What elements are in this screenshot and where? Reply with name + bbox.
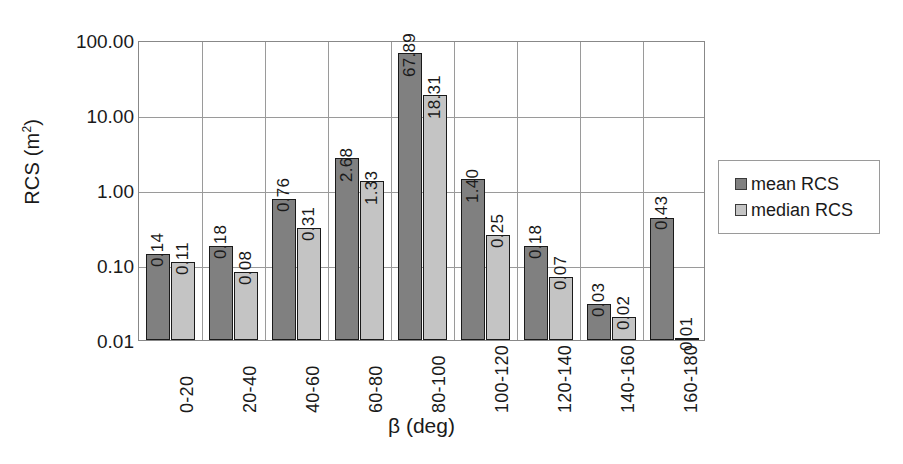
y-axis-tick-label: 100.00: [58, 32, 134, 51]
y-axis-title: RCS (m2): [20, 92, 44, 232]
bar-mean: [461, 179, 485, 340]
bar-median: [423, 95, 447, 340]
bar-value-label: 0.76: [275, 178, 292, 212]
bar-group: 0.760.31: [265, 42, 328, 340]
bar-mean: [650, 218, 674, 341]
bar-group: 67.8918.31: [391, 42, 454, 340]
bar-group: 0.180.08: [202, 42, 265, 340]
x-axis-tick-label: 60-80: [367, 365, 385, 413]
y-axis-title-base: RCS (m: [21, 133, 43, 205]
x-axis-tick-label: 80-100: [430, 355, 448, 413]
bar-group: 2.681.33: [328, 42, 391, 340]
y-axis-tick-label: 1.00: [58, 182, 134, 201]
bar-mean: [524, 246, 548, 340]
bar-value-label: 0.18: [527, 225, 544, 259]
legend-swatch-icon: [735, 178, 747, 190]
bar-value-label: 1.33: [363, 170, 380, 204]
y-axis-title-exponent: 2: [20, 126, 34, 133]
bar-value-label: 0.02: [615, 296, 632, 330]
bar-mean: [272, 199, 296, 340]
bar-value-label: 67.89: [401, 33, 418, 77]
legend-label: mean RCS: [751, 175, 839, 193]
bar-mean: [398, 53, 422, 340]
legend-label: median RCS: [751, 201, 853, 219]
bar-mean: [209, 246, 233, 340]
bar-value-label: 0.25: [489, 214, 506, 248]
bar-value-label: 1.40: [464, 169, 481, 203]
bar-value-label: 0.18: [212, 225, 229, 259]
x-axis-title: β (deg): [138, 414, 705, 438]
y-axis-title-tail: ): [21, 119, 43, 126]
x-axis-tick-label: 160-180: [682, 345, 700, 413]
bar-value-label: 18.31: [426, 75, 443, 119]
bar-value-label: 2.68: [338, 148, 355, 182]
x-axis-tick-label: 40-60: [304, 365, 322, 413]
bar-value-label: 0.07: [552, 255, 569, 289]
bar-group: 0.430.01: [643, 42, 706, 340]
legend-item[interactable]: median RCS: [735, 198, 879, 222]
y-axis-tick-label: 0.10: [58, 257, 134, 276]
bar-value-label: 0.31: [300, 207, 317, 241]
bar-value-label: 0.03: [590, 283, 607, 317]
bar-group: 0.180.07: [517, 42, 580, 340]
rcs-bar-chart: RCS (m2) 100.0010.001.000.100.01 0.140.1…: [0, 0, 903, 464]
chart-legend: mean RCSmedian RCS: [718, 160, 880, 234]
x-axis-tick-label: 100-120: [493, 345, 511, 413]
bar-group: 0.030.02: [580, 42, 643, 340]
bar-value-label: 0.14: [149, 233, 166, 267]
legend-item[interactable]: mean RCS: [735, 172, 879, 196]
bar-value-label: 0.08: [237, 251, 254, 285]
legend-swatch-icon: [735, 204, 747, 216]
bar-median: [297, 228, 321, 340]
bar-group: 1.400.25: [454, 42, 517, 340]
x-axis-tick-label: 20-40: [241, 365, 259, 413]
x-axis-tick-labels: 0-2020-4040-6060-8080-100100-120120-1401…: [138, 345, 705, 415]
x-axis-tick-label: 0-20: [178, 376, 196, 413]
y-axis-tick-label: 0.01: [58, 332, 134, 351]
x-axis-tick-label: 120-140: [556, 345, 574, 413]
y-axis-tick-label: 10.00: [58, 107, 134, 126]
plot-area: 0.140.110.180.080.760.312.681.3367.8918.…: [138, 41, 705, 341]
x-axis-tick-label: 140-160: [619, 345, 637, 413]
bar-mean: [335, 158, 359, 340]
bar-group: 0.140.11: [139, 42, 202, 340]
y-axis-tick-labels: 100.0010.001.000.100.01: [54, 0, 134, 464]
bar-median: [486, 235, 510, 340]
bar-value-label: 0.11: [174, 242, 191, 275]
bar-value-label: 0.43: [653, 196, 670, 230]
